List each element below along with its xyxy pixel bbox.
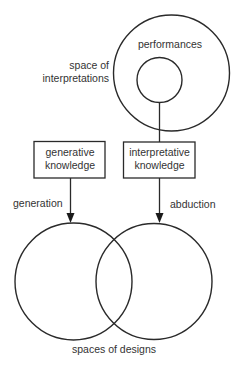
performances-label: performances [138,38,202,50]
space-of-interpretations-label-line1: space of [69,59,109,71]
abduction-arrowhead-icon [156,213,164,223]
generation-label: generation [13,197,63,209]
interpretative-knowledge-label-line1: interpretative [129,146,190,158]
design-space-left-circle [15,223,132,340]
generative-knowledge-label-line1: generative [45,146,94,158]
generation-arrowhead-icon [67,213,75,223]
interpretations-circle [137,58,182,103]
abduction-label: abduction [170,198,216,210]
design-knowledge-diagram: performances space of interpretations ge… [0,0,239,367]
generative-knowledge-label-line2: knowledge [45,159,95,171]
spaces-of-designs-label: spaces of designs [72,343,156,355]
interpretative-knowledge-label-line2: knowledge [134,159,184,171]
space-of-interpretations-label-line2: interpretations [42,72,109,84]
performances-circle [114,15,230,131]
design-space-right-circle [96,224,212,340]
